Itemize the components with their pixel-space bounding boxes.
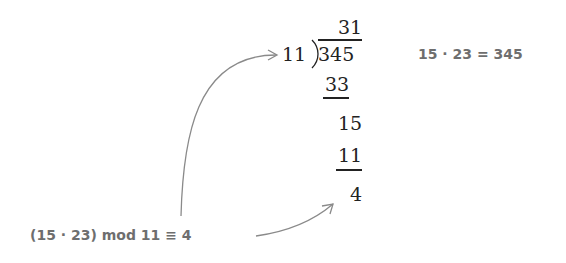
subtract-rule-2 [336, 169, 362, 171]
subtract-rule-1 [323, 97, 349, 99]
remainder-1: 15 [338, 114, 362, 133]
subtract-1: 33 [325, 75, 349, 94]
dividend: 345 [318, 45, 354, 64]
product-annotation: 15 · 23 = 345 [418, 47, 523, 61]
final-remainder: 4 [350, 185, 362, 204]
division-bracket [0, 0, 566, 263]
subtract-2: 11 [338, 146, 362, 165]
modulo-annotation: (15 · 23) mod 11 ≡ 4 [30, 228, 192, 242]
